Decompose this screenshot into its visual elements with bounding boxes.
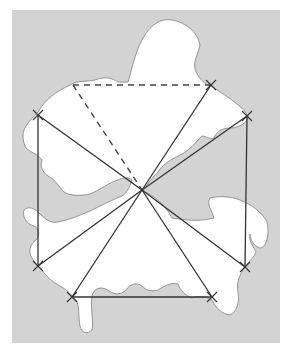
geometric-diagram: [0, 0, 294, 358]
